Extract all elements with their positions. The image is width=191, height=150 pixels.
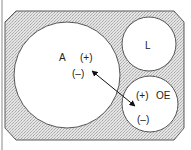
label-oe: OE	[156, 90, 171, 101]
label-oe-plus: (+)	[136, 90, 149, 101]
diagram-canvas: A (+) (–) L (+) OE (–)	[0, 0, 191, 150]
circle-a	[14, 22, 120, 128]
label-l: L	[145, 40, 151, 51]
label-a-plus: (+)	[80, 52, 93, 63]
label-a: A	[59, 52, 66, 63]
label-a-minus: (–)	[72, 68, 84, 79]
label-oe-minus: (–)	[137, 114, 149, 125]
circle-oe	[122, 76, 178, 132]
